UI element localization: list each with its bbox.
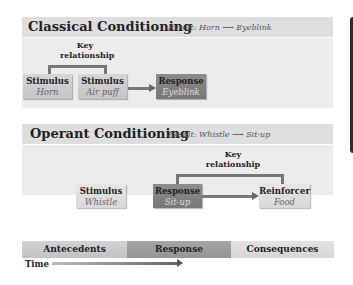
classical-response-eyeblink: Response Eyeblink (156, 74, 206, 99)
classical-arrow (128, 87, 149, 90)
operant-reinforcer-food: Reinforcer Food (259, 184, 310, 208)
operant-response-situp: Response Sit-up (153, 184, 202, 208)
classical-stimulus-horn: Stimulus Horn (23, 74, 72, 99)
timeline-response: Response (127, 241, 231, 258)
classical-key-label: Key relationship (60, 40, 110, 60)
operant-arrow (202, 195, 252, 198)
arrow-right-icon (252, 192, 259, 200)
classical-result: Result: Horn ⟶ Eyeblink (168, 23, 272, 32)
operant-title: Operant Conditioning (30, 126, 189, 141)
classical-stimulus-airpuff: Stimulus Air puff (78, 74, 127, 99)
timeline-antecedents: Antecedents (22, 241, 127, 258)
time-arrow (52, 262, 177, 265)
operant-stimulus-whistle: Stimulus Whistle (76, 184, 126, 208)
arrow-right-icon (177, 259, 183, 267)
arrow-right-icon (149, 84, 156, 92)
operant-result: Result: Whistle ⟶ Sit-up (168, 130, 270, 139)
time-label: Time (25, 259, 49, 269)
classical-header: Classical Conditioning Result: Horn ⟶ Ey… (22, 17, 333, 37)
operant-key-bracket (176, 174, 284, 184)
classical-body: Key relationship Stimulus Horn Stimulus … (22, 38, 333, 108)
timeline-consequences: Consequences (231, 241, 334, 258)
operant-header: Operant Conditioning Result: Whistle ⟶ S… (22, 124, 333, 144)
classical-key-bracket (48, 65, 107, 74)
operant-key-label: Key relationship (205, 149, 261, 169)
